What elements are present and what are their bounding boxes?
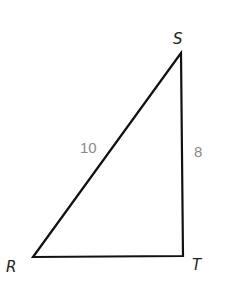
triangle-diagram: S R T 10 8 bbox=[0, 0, 227, 297]
side-label-st: 8 bbox=[194, 143, 202, 160]
vertex-label-s: S bbox=[173, 30, 183, 48]
side-label-rs: 10 bbox=[80, 139, 97, 156]
vertex-label-r: R bbox=[6, 258, 16, 276]
vertex-label-t: T bbox=[192, 256, 203, 274]
triangle-rst bbox=[33, 53, 183, 257]
